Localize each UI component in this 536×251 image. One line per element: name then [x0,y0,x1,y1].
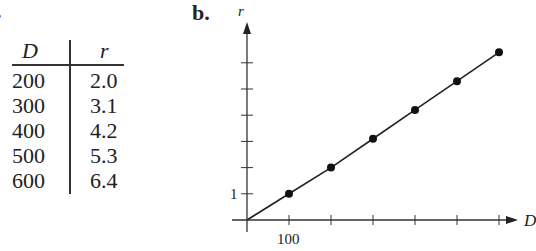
data-point [495,48,503,56]
chart-axes [232,26,512,232]
data-point [285,190,293,198]
data-point [327,164,335,172]
data-point [369,135,377,143]
y-axis-arrow-icon [243,22,251,34]
x-axis-label: D [523,211,536,230]
y-axis-label: r [238,3,244,19]
data-point [453,77,461,85]
x-axis-arrow-icon [506,216,518,224]
line-chart: r D 100 1 [0,0,536,251]
x-tick-label: 100 [277,231,300,247]
y-tick-label: 1 [230,186,238,202]
data-point [411,106,419,114]
